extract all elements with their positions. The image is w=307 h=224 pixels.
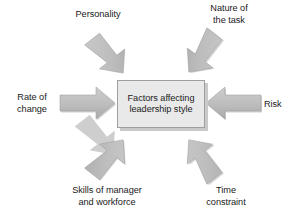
node-label-skills-of-manager-and-workforce: Skills of manager and workforce — [51, 185, 163, 208]
center-node: Factors affecting leadership style — [117, 80, 205, 128]
leadership-style-diagram: Factors affecting leadership style Perso… — [0, 0, 307, 224]
node-label-time-constraint: Time constraint — [189, 185, 263, 208]
arrow-nature-of-the-task — [176, 26, 232, 83]
node-label-rate-of-change: Rate of change — [6, 92, 58, 115]
arrow-time-constraint — [176, 130, 232, 187]
arrow-risk — [206, 87, 262, 121]
node-label-personality: Personality — [63, 9, 133, 21]
center-node-label: Factors affecting leadership style — [128, 93, 195, 116]
node-label-nature-of-the-task: Nature of the task — [192, 3, 266, 26]
arrow-rate-of-change — [60, 87, 116, 121]
node-label-risk: Risk — [264, 99, 302, 111]
